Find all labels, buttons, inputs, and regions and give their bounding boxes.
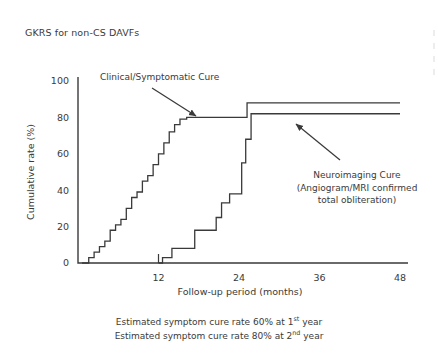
chart-annotations: Clinical/Symptomatic CureNeuroimaging Cu… bbox=[100, 72, 417, 205]
chart-caption: Estimated symptom cure rate 60% at 1st y… bbox=[0, 316, 438, 343]
y-tick-label: 40 bbox=[57, 185, 69, 196]
x-tick-label: 12 bbox=[152, 272, 164, 283]
annotation-label: total obliteration) bbox=[318, 195, 397, 205]
neuroimaging-annotation: Neuroimaging Cure(Angiogram/MRI confirme… bbox=[296, 124, 417, 205]
x-axis-label: Follow-up period (months) bbox=[178, 286, 303, 297]
y-axis-ticks: 020406080100 bbox=[51, 75, 69, 268]
annotation-label: (Angiogram/MRI confirmed bbox=[297, 183, 418, 193]
y-tick-label: 60 bbox=[57, 148, 69, 159]
clinical-annotation: Clinical/Symptomatic Cure bbox=[100, 72, 220, 116]
y-axis-label: Cumulative rate (%) bbox=[25, 124, 36, 220]
caption-line-2: Estimated symptom cure rate 80% at 2nd y… bbox=[0, 330, 438, 344]
x-tick-label: 24 bbox=[233, 272, 245, 283]
y-tick-label: 80 bbox=[57, 112, 69, 123]
x-tick-label: 36 bbox=[313, 272, 325, 283]
annotation-label: Clinical/Symptomatic Cure bbox=[100, 72, 220, 82]
y-tick-label: 20 bbox=[57, 221, 69, 232]
annotation-label: Neuroimaging Cure bbox=[313, 170, 401, 180]
y-tick-label: 100 bbox=[51, 75, 69, 86]
x-tick-label: 48 bbox=[394, 272, 406, 283]
caption-line-1-pre: Estimated symptom cure rate 60% at 1 bbox=[116, 317, 294, 327]
caption-line-1-post: year bbox=[299, 317, 322, 327]
caption-line-1: Estimated symptom cure rate 60% at 1st y… bbox=[0, 316, 438, 330]
figure-slide: GKRS for non-CS DAVFs 020406080100 12243… bbox=[0, 0, 438, 353]
annotation-arrow-icon bbox=[152, 88, 196, 116]
cumulative-rate-chart: 020406080100 12243648 Clinical/Symptomat… bbox=[0, 0, 438, 353]
annotation-arrow-icon bbox=[296, 124, 340, 160]
caption-line-2-post: year bbox=[300, 331, 323, 341]
x-axis-ticks: 12243648 bbox=[152, 254, 406, 283]
caption-line-2-pre: Estimated symptom cure rate 80% at 2 bbox=[115, 331, 293, 341]
y-tick-label: 0 bbox=[63, 257, 69, 268]
